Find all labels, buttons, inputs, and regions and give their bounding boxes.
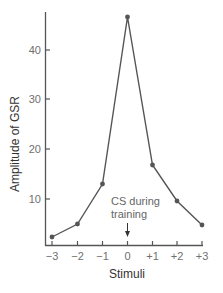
y-tick-label: 30 bbox=[29, 93, 41, 105]
x-tick-label: 0 bbox=[124, 250, 130, 262]
arrow-head-icon bbox=[125, 231, 130, 237]
annotation-text: CS during bbox=[111, 195, 160, 207]
x-tick-label: +1 bbox=[146, 250, 159, 262]
x-tick-label: −3 bbox=[46, 250, 59, 262]
x-tick-label: −1 bbox=[96, 250, 109, 262]
x-axis-title: Stimuli bbox=[109, 267, 145, 281]
y-axis-title: Amplitude of GSR bbox=[8, 96, 22, 192]
y-tick-label: 40 bbox=[29, 44, 41, 56]
x-tick-label: +2 bbox=[171, 250, 184, 262]
y-tick-label: 10 bbox=[29, 193, 41, 205]
x-tick-label: −2 bbox=[71, 250, 84, 262]
annotation-text: training bbox=[111, 208, 147, 220]
y-tick-label: 20 bbox=[29, 143, 41, 155]
x-tick-label: +3 bbox=[196, 250, 209, 262]
x-ticks: −3 −2 −1 0 +1 +2 +3 bbox=[46, 241, 209, 262]
y-ticks: 10 20 30 40 bbox=[29, 44, 50, 205]
gsr-chart: 10 20 30 40 −3 −2 −1 0 +1 +2 +3 CS durin… bbox=[0, 0, 223, 293]
